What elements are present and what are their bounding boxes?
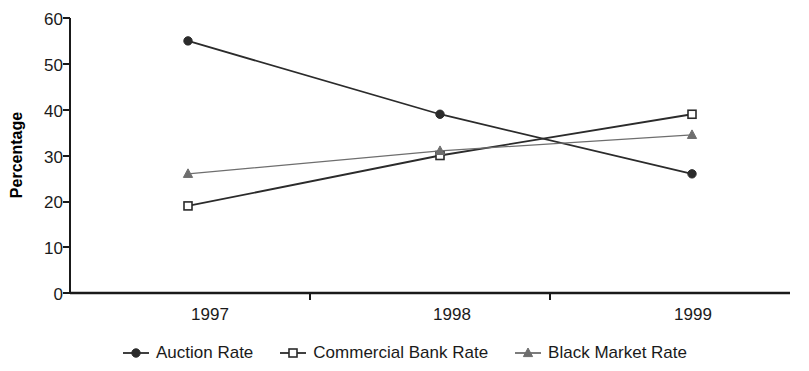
open-square-icon [279, 346, 307, 360]
filled-triangle-icon [514, 346, 542, 360]
y-tick-label-30: 30 [44, 148, 63, 167]
data-point [687, 130, 696, 139]
legend-marker [132, 349, 140, 357]
y-tick-label-60: 60 [44, 10, 63, 29]
y-tick-label-0: 0 [54, 285, 63, 304]
legend-label: Black Market Rate [548, 343, 687, 363]
legend-label: Auction Rate [156, 343, 253, 363]
line-chart-plot: Percentage 60 50 40 30 20 10 0 1997 1998… [0, 0, 809, 371]
legend-marker [289, 349, 297, 357]
series-layer [183, 37, 696, 210]
data-point [184, 37, 192, 45]
series-commercial-bank-rate [184, 110, 696, 210]
x-tick-label-1997: 1997 [191, 305, 229, 324]
chart-legend: Auction RateCommercial Bank RateBlack Ma… [0, 338, 809, 368]
y-tick-label-50: 50 [44, 56, 63, 75]
legend-label: Commercial Bank Rate [313, 343, 488, 363]
x-tick-label-1999: 1999 [674, 305, 712, 324]
legend-entry-auction-rate[interactable]: Auction Rate [122, 343, 253, 363]
y-tick-label-40: 40 [44, 102, 63, 121]
data-point [688, 110, 696, 118]
filled-circle-icon [122, 346, 150, 360]
series-black-market-rate [183, 130, 696, 178]
chart-figure: Percentage 60 50 40 30 20 10 0 1997 1998… [0, 0, 809, 371]
data-point [436, 110, 444, 118]
y-tick-label-20: 20 [44, 193, 63, 212]
legend-entry-commercial-bank-rate[interactable]: Commercial Bank Rate [279, 343, 488, 363]
data-point [688, 170, 696, 178]
legend-entry-black-market-rate[interactable]: Black Market Rate [514, 343, 687, 363]
y-tick-label-10: 10 [44, 239, 63, 258]
x-tick-label-1998: 1998 [433, 305, 471, 324]
data-point [184, 202, 192, 210]
y-axis-label: Percentage [8, 112, 25, 198]
